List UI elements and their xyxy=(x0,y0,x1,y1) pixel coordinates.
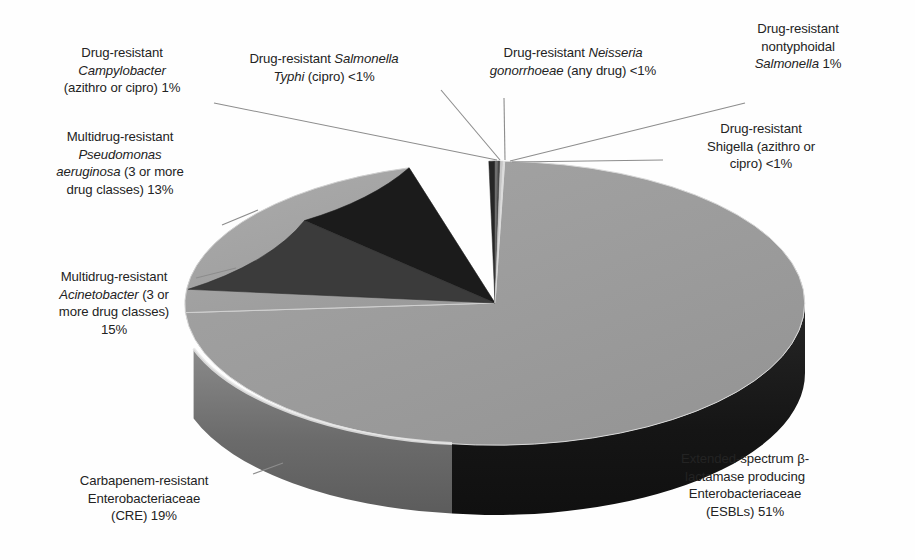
pie-slice-campylobacter[interactable] xyxy=(489,161,495,303)
species-name: Campylobacter xyxy=(78,63,165,78)
species-name: Neisseria xyxy=(588,45,642,60)
label-extended-spectrum-beta-lactamase-enterobacteriaceae: Extended-spectrum β- lactamase producing… xyxy=(620,450,870,520)
label-line: Drug-resistant Neisseria xyxy=(452,44,694,62)
label-line: Campylobacter xyxy=(24,62,220,80)
label-line: Salmonella 1% xyxy=(700,55,896,73)
label-drug-resistant-campylobacter: Drug-resistant Campylobacter (azithro or… xyxy=(24,44,220,97)
label-line: Drug-resistant Salmonella xyxy=(212,50,436,68)
label-text: (cipro) <1% xyxy=(304,69,374,84)
label-text: (3 or more xyxy=(120,164,183,179)
leader-line-shigella xyxy=(512,160,663,162)
label-text: (any drug) <1% xyxy=(564,63,657,78)
label-line: aeruginosa (3 or more xyxy=(14,163,226,181)
label-line: (CRE) 19% xyxy=(22,507,266,525)
label-line: drug classes) 13% xyxy=(14,181,226,199)
leader-line-salmonella-typhi xyxy=(441,90,500,160)
label-line: Enterobacteriaceae xyxy=(22,490,266,508)
label-drug-resistant-shigella: Drug-resistant Shigella (azithro or cipr… xyxy=(668,120,854,173)
label-text: (3 or xyxy=(139,287,169,302)
label-drug-resistant-nontyphoidal-salmonella: Drug-resistant nontyphoidal Salmonella 1… xyxy=(700,20,896,73)
label-carbapenem-resistant-enterobacteriaceae: Carbapenem-resistant Enterobacteriaceae … xyxy=(22,472,266,525)
label-line: Carbapenem-resistant xyxy=(22,472,266,490)
label-line: nontyphoidal xyxy=(700,38,896,56)
label-line: Typhi (cipro) <1% xyxy=(212,68,436,86)
species-name: gonorrhoeae xyxy=(490,63,564,78)
label-line: Acinetobacter (3 or xyxy=(22,286,206,304)
leader-line-campylobacter xyxy=(214,103,497,160)
label-text: Drug-resistant xyxy=(503,45,588,60)
species-name: Salmonella xyxy=(334,51,398,66)
pie-chart-figure: Drug-resistant Campylobacter (azithro or… xyxy=(0,0,915,560)
label-line: Pseudomonas xyxy=(14,146,226,164)
label-line: (azithro or cipro) 1% xyxy=(24,79,220,97)
label-line: Enterobacteriaceae xyxy=(620,485,870,503)
species-name: Acinetobacter xyxy=(59,287,138,302)
label-line: cipro) <1% xyxy=(668,155,854,173)
species-name: Typhi xyxy=(273,69,304,84)
species-name: Pseudomonas xyxy=(78,147,161,162)
label-line: Drug-resistant xyxy=(24,44,220,62)
label-line: lactamase producing xyxy=(620,468,870,486)
label-text: 1% xyxy=(819,56,841,71)
label-line: Drug-resistant xyxy=(700,20,896,38)
label-line: Drug-resistant xyxy=(668,120,854,138)
label-text: Drug-resistant xyxy=(249,51,334,66)
species-name: aeruginosa xyxy=(56,164,120,179)
label-line: gonorrhoeae (any drug) <1% xyxy=(452,62,694,80)
species-name: Salmonella xyxy=(755,56,819,71)
label-line: (ESBLs) 51% xyxy=(620,503,870,521)
label-multidrug-resistant-acinetobacter: Multidrug-resistant Acinetobacter (3 or … xyxy=(22,268,206,338)
label-line: 15% xyxy=(22,321,206,339)
label-line: Multidrug-resistant xyxy=(14,128,226,146)
label-multidrug-resistant-pseudomonas-aeruginosa: Multidrug-resistant Pseudomonas aerugino… xyxy=(14,128,226,198)
label-drug-resistant-neisseria-gonorrhoeae: Drug-resistant Neisseria gonorrhoeae (an… xyxy=(452,44,694,79)
label-line: Extended-spectrum β- xyxy=(620,450,870,468)
label-line: more drug classes) xyxy=(22,303,206,321)
label-drug-resistant-salmonella-typhi: Drug-resistant Salmonella Typhi (cipro) … xyxy=(212,50,436,85)
leader-line-neisseria xyxy=(504,98,505,160)
label-line: Multidrug-resistant xyxy=(22,268,206,286)
label-line: Shigella (azithro or xyxy=(668,138,854,156)
